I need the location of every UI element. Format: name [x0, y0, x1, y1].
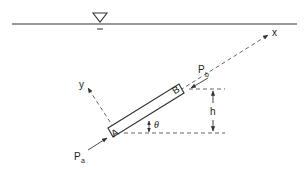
free-surface-triangle-icon	[93, 13, 107, 22]
y-axis: y	[79, 79, 114, 128]
pressure-b-arrow	[191, 78, 208, 88]
angle-label: θ	[154, 119, 159, 130]
height-dimension: h	[210, 91, 216, 131]
pressure-a-subscript: a	[81, 157, 85, 164]
angle-theta: θ	[149, 119, 159, 132]
free-surface	[12, 13, 297, 29]
y-axis-line	[88, 88, 114, 128]
pressure-b: P b	[191, 64, 209, 88]
pressure-b-label: P	[198, 64, 205, 75]
height-label: h	[210, 106, 216, 117]
pressure-a: P a	[74, 138, 107, 164]
pressure-b-subscript: b	[205, 71, 209, 78]
pipe-segment: A B	[108, 83, 184, 139]
y-axis-label: y	[79, 79, 84, 90]
x-axis-label: x	[272, 27, 277, 38]
pipe-diagram: x y A B P b P a h θ	[0, 0, 308, 170]
pressure-a-label: P	[74, 151, 81, 162]
pressure-a-arrow	[88, 138, 107, 150]
